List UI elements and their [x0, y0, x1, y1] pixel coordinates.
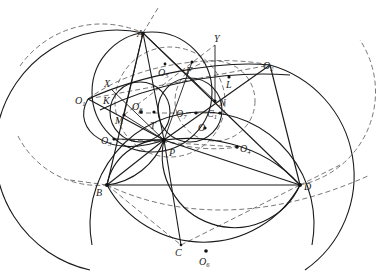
label-l: L: [225, 79, 232, 90]
label-o7: O7: [176, 108, 187, 120]
line-pd: [164, 140, 300, 185]
point-o5: [164, 63, 167, 66]
point-o7: [194, 111, 197, 114]
labels: A B C D P N L Y F X K M O T O1 O2 O3 O4 …: [75, 28, 312, 268]
point-o3: [112, 137, 115, 140]
label-a: A: [136, 28, 144, 39]
arc-left-big: [0, 30, 143, 270]
label-o2: O2: [263, 60, 274, 72]
label-o4: O4: [240, 143, 251, 155]
label-m: M: [114, 115, 124, 126]
line-o3-p: [114, 139, 164, 140]
point-t: [152, 110, 155, 113]
label-x: X: [103, 78, 111, 89]
label-f: F: [185, 65, 193, 76]
point-o4: [235, 145, 239, 149]
dashed-line-o1-o2: [88, 65, 270, 99]
point-c: [180, 244, 183, 247]
dashed-arc-right: [300, 40, 376, 185]
geometry-diagram: A B C D P N L Y F X K M O T O1 O2 O3 O4 …: [0, 0, 383, 276]
label-p: P: [168, 147, 175, 158]
point-o6: [204, 249, 208, 253]
label-c1: C1: [207, 108, 217, 120]
label-o1: O1: [75, 95, 85, 107]
label-o3: O3: [101, 135, 112, 147]
label-o5: O5: [158, 67, 169, 79]
point-p: [162, 138, 166, 142]
arc-pd: [162, 140, 300, 228]
dashed-line-o3-o4: [114, 139, 237, 147]
label-c: C: [175, 247, 182, 258]
dashed-construction-circles: [18, 8, 376, 245]
dashed-line-a-ext: [143, 8, 158, 33]
label-o8: O8: [132, 101, 143, 113]
diagram-canvas: A B C D P N L Y F X K M O T O1 O2 O3 O4 …: [0, 0, 383, 276]
line-o2-d: [270, 65, 300, 185]
label-y: Y: [214, 33, 221, 44]
label-n: N: [218, 97, 227, 108]
label-b: B: [96, 187, 102, 198]
label-o: O: [198, 122, 205, 133]
point-b: [105, 183, 109, 187]
point-f: [190, 60, 193, 63]
point-d: [298, 183, 302, 187]
dashed-arc-bd: [107, 175, 370, 210]
line-m-p: [124, 115, 164, 140]
dashed-line-bc: [107, 185, 181, 245]
dashed-arc-lower-left: [18, 136, 107, 185]
label-o6: O6: [199, 256, 210, 268]
point-c1: [218, 111, 221, 114]
label-k: K: [102, 95, 111, 106]
label-d: D: [303, 181, 312, 192]
point-n: [213, 99, 216, 102]
